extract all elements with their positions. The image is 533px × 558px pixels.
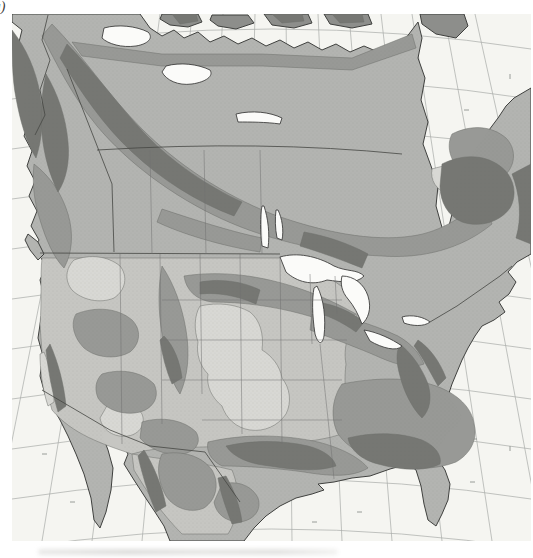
figure-panel: (a) — [0, 0, 533, 558]
north-america-map — [12, 14, 531, 541]
map-canvas — [12, 14, 531, 541]
figure-label: (a) — [0, 0, 5, 15]
caption-ghost-smudge — [38, 549, 338, 555]
